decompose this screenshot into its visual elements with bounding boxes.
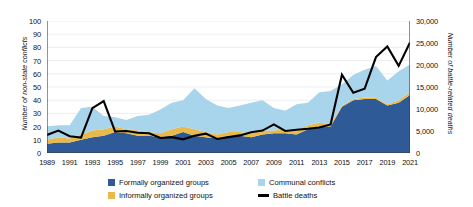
y-tick-left-100: 100 [17, 17, 41, 26]
legend-item-informally-organized-groups[interactable]: Informally organized groups [108, 191, 258, 200]
y-tick-left-70: 70 [17, 57, 41, 66]
legend-item-formally-organized-groups[interactable]: Formally organized groups [108, 178, 258, 187]
y-tick-left-30: 30 [17, 109, 41, 118]
y-tick-left-0: 0 [17, 149, 41, 158]
y-tick-right-5000: 5,000 [416, 127, 450, 136]
y-tick-right-20000: 20,000 [416, 61, 450, 70]
y-tick-right-25000: 25,000 [416, 39, 450, 48]
chart-legend: Formally organized groupsCommunal confli… [108, 176, 398, 202]
legend-swatch-icon [108, 192, 115, 199]
y-tick-right-10000: 10,000 [416, 105, 450, 114]
y-tick-left-90: 90 [17, 30, 41, 39]
legend-item-battle-deaths[interactable]: Battle deaths [258, 191, 398, 200]
chart-figure: Number of non-state conflicts Number of … [0, 0, 473, 207]
plot-area [47, 21, 410, 153]
y-tick-right-0: 0 [416, 149, 450, 158]
y-tick-left-10: 10 [17, 136, 41, 145]
legend-label: Informally organized groups [119, 191, 213, 200]
y-tick-left-80: 80 [17, 43, 41, 52]
legend-swatch-icon [258, 179, 265, 186]
chart-canvas [47, 21, 410, 153]
y-tick-left-50: 50 [17, 83, 41, 92]
legend-line-icon [258, 194, 269, 196]
legend-label: Communal conflicts [269, 178, 335, 187]
x-tick-2021: 2021 [395, 158, 425, 167]
legend-label: Formally organized groups [119, 178, 209, 187]
legend-item-communal-conflicts[interactable]: Communal conflicts [258, 178, 398, 187]
legend-swatch-icon [108, 179, 115, 186]
y-tick-right-15000: 15,000 [416, 83, 450, 92]
y-tick-left-60: 60 [17, 70, 41, 79]
y-tick-left-40: 40 [17, 96, 41, 105]
y-tick-left-20: 20 [17, 123, 41, 132]
y-tick-right-30000: 30,000 [416, 17, 450, 26]
legend-label: Battle deaths [273, 191, 317, 200]
